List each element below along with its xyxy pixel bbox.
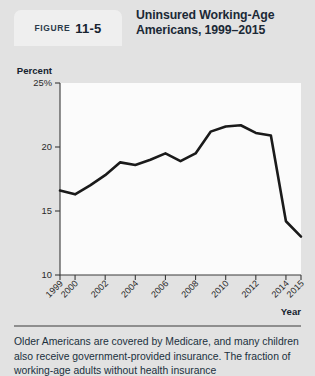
figure-number: 11-5 (75, 21, 101, 36)
caption-block: Older Americans are covered by Medicare,… (0, 319, 315, 376)
figure-badge: FIGURE 11-5 (14, 10, 122, 46)
x-tick-label: 2008 (179, 278, 200, 299)
figure-title: Uninsured Working-Age Americans, 1999–20… (136, 8, 310, 37)
y-tick-label: 10 (42, 269, 52, 280)
plot-area (60, 83, 301, 275)
y-tick-label: 25% (33, 77, 52, 88)
x-tick-label: 2006 (149, 278, 170, 299)
chart-panel: 25%201510Percent199920002002200420062008… (0, 56, 315, 319)
x-tick-label: 2010 (209, 278, 230, 299)
caption-text: Older Americans are covered by Medicare,… (14, 335, 304, 376)
x-tick-label: 2004 (119, 278, 140, 299)
y-axis-title: Percent (17, 65, 53, 76)
y-tick-label: 20 (42, 141, 52, 152)
figure-label: FIGURE (35, 23, 71, 33)
x-tick-label: 2015 (285, 278, 306, 299)
line-chart: 25%201510Percent199920002002200420062008… (0, 56, 315, 319)
x-tick-label: 2000 (59, 278, 80, 299)
x-axis-title: Year (281, 306, 302, 317)
figure-card: FIGURE 11-5 Uninsured Working-Age Americ… (0, 0, 315, 376)
y-tick-label: 15 (42, 205, 52, 216)
x-tick-label: 2012 (239, 278, 260, 299)
figure-header: FIGURE 11-5 Uninsured Working-Age Americ… (0, 0, 315, 56)
caption-divider (14, 325, 301, 327)
x-tick-label: 2002 (89, 278, 110, 299)
